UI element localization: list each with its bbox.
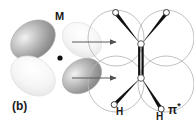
metal-lobe-upper-right: [56, 15, 109, 65]
hydrogen-atom-icon-top-left: [113, 10, 119, 16]
metal-center-dot-icon: [57, 55, 62, 60]
hydrogen-label-right: H: [156, 112, 163, 122]
orbital-interaction-figure: M (b) H H π*: [0, 0, 194, 124]
pi-star-orbital-icon: [88, 10, 194, 112]
pi-star-label: π*: [168, 102, 181, 116]
bond-bottom-left: [113, 78, 141, 106]
star-symbol: *: [177, 101, 181, 111]
bond-top-left: [114, 13, 140, 45]
bond-bottom-right: [142, 78, 163, 110]
metal-label: M: [55, 11, 64, 22]
hydrogen-label-left: H: [116, 107, 123, 117]
hydrogen-atom-icon-top-right: [163, 10, 169, 16]
metal-lobe-lower-right: [56, 51, 109, 101]
carbon-atom-icon-top: [138, 41, 145, 48]
pi-lobe-bottom-right: [138, 56, 194, 112]
figure-artwork: [0, 0, 194, 124]
panel-label: (b): [12, 100, 27, 112]
pi-symbol: π: [168, 103, 177, 117]
metal-d-orbital-icon: [3, 12, 108, 105]
carbon-atom-icon-bottom: [138, 75, 145, 82]
bond-top-right: [142, 13, 169, 45]
